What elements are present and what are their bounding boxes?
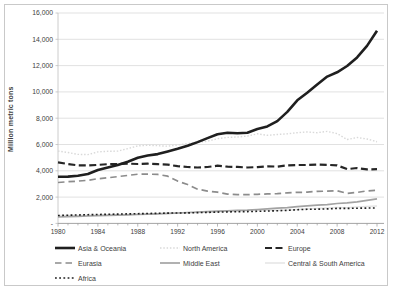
- series-line-eurasia: [58, 174, 377, 195]
- y-tick-label: 14,000: [32, 36, 53, 43]
- plot-area: -2,0004,0006,0008,00010,00012,00014,0001…: [0, 0, 394, 291]
- y-tick-label: 8,000: [36, 115, 53, 122]
- y-tick-label: 2,000: [36, 194, 53, 201]
- x-tick-label: 2012: [370, 228, 385, 235]
- y-tick-label: 12,000: [32, 62, 53, 69]
- y-tick-label: 6,000: [36, 141, 53, 148]
- y-tick-label: 10,000: [32, 88, 53, 95]
- y-tick-label: -: [51, 220, 53, 227]
- y-tick-label: 16,000: [32, 9, 53, 16]
- x-tick-label: 1996: [210, 228, 225, 235]
- x-tick-label: 1988: [130, 228, 145, 235]
- x-tick-label: 1992: [170, 228, 185, 235]
- x-tick-label: 2000: [250, 228, 265, 235]
- x-tick-label: 1980: [51, 228, 66, 235]
- x-tick-label: 1984: [91, 228, 106, 235]
- x-tick-label: 2004: [290, 228, 305, 235]
- y-tick-label: 4,000: [36, 167, 53, 174]
- x-tick-label: 2008: [330, 228, 345, 235]
- series-line-asia-oceania: [58, 31, 377, 177]
